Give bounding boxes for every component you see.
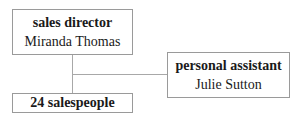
assistant-name: Julie Sutton: [168, 75, 289, 95]
director-role: sales director: [13, 14, 132, 32]
assistant-role: personal assistant: [168, 57, 289, 75]
director-box: sales director Miranda Thomas: [12, 9, 133, 55]
connector-horizontal: [72, 74, 167, 75]
director-name: Miranda Thomas: [13, 32, 132, 52]
team-box: 24 salespeople: [12, 93, 133, 113]
team-label: 24 salespeople: [13, 94, 132, 112]
assistant-box: personal assistant Julie Sutton: [167, 52, 290, 98]
